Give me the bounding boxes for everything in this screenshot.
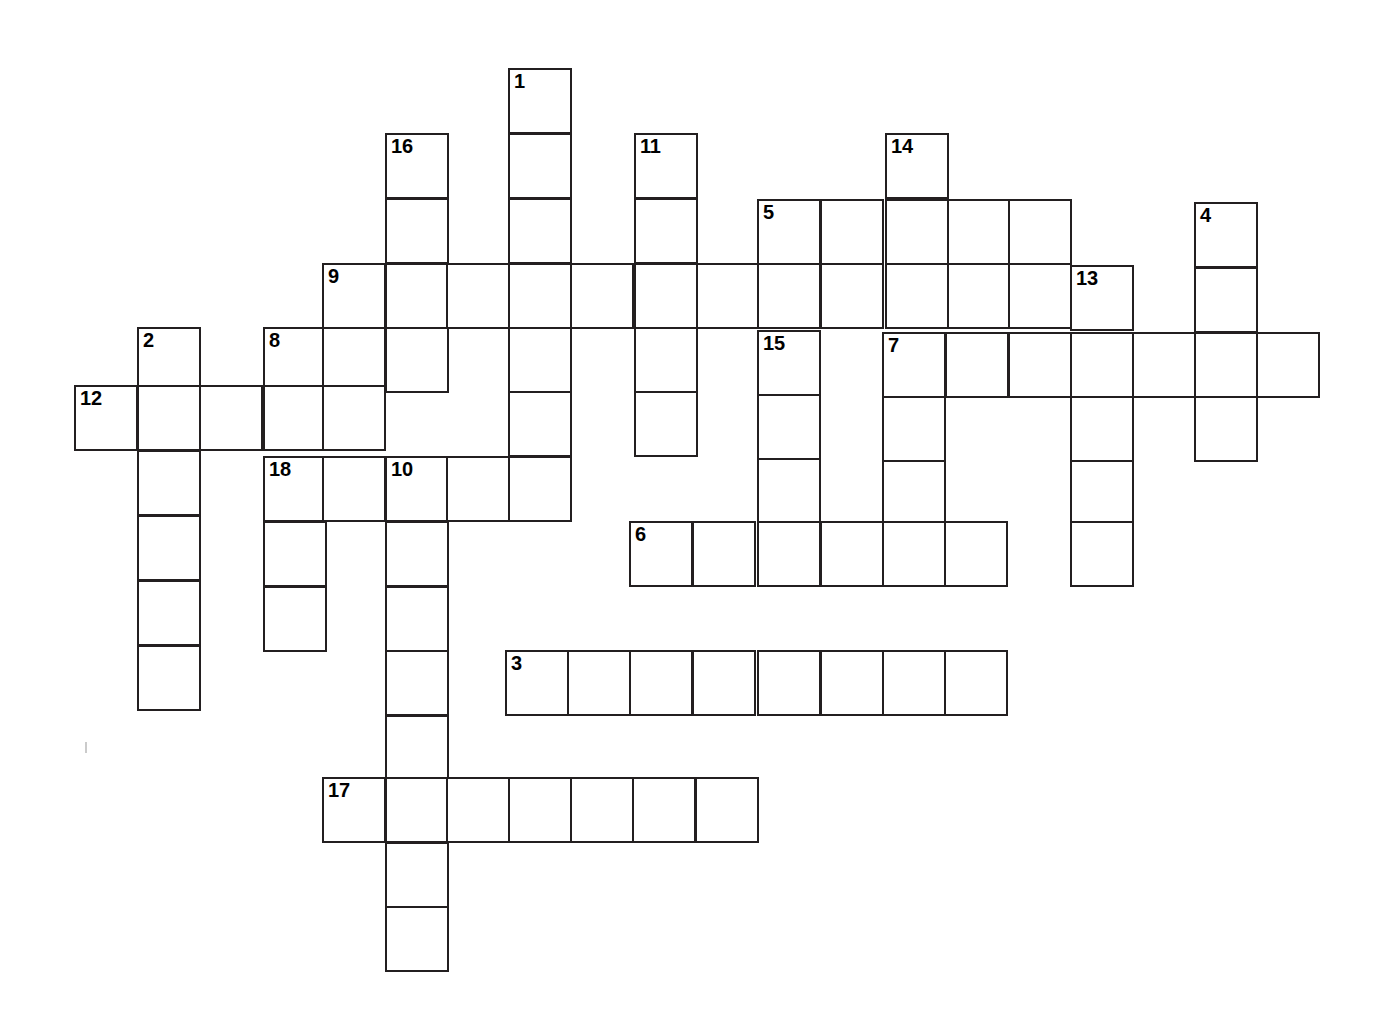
grid-cell[interactable]	[199, 385, 263, 451]
clue-number-3: 3	[511, 653, 522, 674]
grid-cell-numbered-11[interactable]: 11	[634, 133, 698, 199]
grid-cell[interactable]	[947, 263, 1011, 329]
grid-cell[interactable]	[322, 456, 386, 522]
grid-cell[interactable]	[629, 650, 693, 716]
grid-cell[interactable]	[820, 263, 884, 329]
grid-cell[interactable]	[634, 327, 698, 393]
grid-cell[interactable]	[385, 198, 449, 264]
crossword-grid[interactable]: 116111454913281571218106317	[0, 0, 1386, 1033]
grid-cell[interactable]	[634, 198, 698, 264]
grid-cell[interactable]	[508, 198, 572, 264]
clue-number-13: 13	[1076, 268, 1098, 289]
grid-cell[interactable]	[696, 263, 760, 329]
grid-cell[interactable]	[692, 650, 756, 716]
grid-cell[interactable]	[757, 650, 821, 716]
grid-cell-numbered-8[interactable]: 8	[263, 327, 327, 393]
grid-cell[interactable]	[1194, 396, 1258, 462]
grid-cell[interactable]	[322, 327, 386, 393]
grid-cell[interactable]	[1008, 199, 1072, 265]
grid-cell[interactable]	[757, 263, 821, 329]
grid-cell[interactable]	[508, 456, 572, 522]
grid-cell-numbered-16[interactable]: 16	[385, 133, 449, 199]
grid-cell[interactable]	[634, 263, 698, 329]
grid-cell[interactable]	[263, 586, 327, 652]
grid-cell[interactable]	[137, 515, 201, 581]
grid-cell[interactable]	[508, 133, 572, 199]
grid-cell[interactable]	[508, 777, 572, 843]
grid-cell-numbered-12[interactable]: 12	[74, 385, 138, 451]
grid-cell[interactable]	[1194, 267, 1258, 333]
grid-cell[interactable]	[634, 391, 698, 457]
grid-cell[interactable]	[1008, 263, 1072, 329]
grid-cell-numbered-2[interactable]: 2	[137, 327, 201, 393]
grid-cell[interactable]	[508, 327, 572, 393]
grid-cell[interactable]	[385, 777, 449, 843]
grid-cell[interactable]	[385, 327, 449, 393]
grid-cell[interactable]	[385, 263, 449, 329]
grid-cell[interactable]	[137, 450, 201, 516]
grid-cell[interactable]	[570, 777, 634, 843]
grid-cell-numbered-4[interactable]: 4	[1194, 202, 1258, 268]
grid-cell[interactable]	[1008, 332, 1072, 398]
grid-cell[interactable]	[947, 199, 1011, 265]
grid-cell[interactable]	[385, 842, 449, 908]
grid-cell[interactable]	[446, 263, 510, 329]
grid-cell[interactable]	[1070, 396, 1134, 462]
grid-cell[interactable]	[508, 263, 572, 329]
grid-cell[interactable]	[446, 777, 510, 843]
grid-cell[interactable]	[757, 394, 821, 460]
grid-cell[interactable]	[757, 458, 821, 524]
grid-cell-numbered-1[interactable]: 1	[508, 68, 572, 134]
clue-number-6: 6	[635, 524, 646, 545]
grid-cell[interactable]	[1070, 332, 1134, 398]
grid-cell[interactable]	[820, 650, 884, 716]
grid-cell[interactable]	[385, 521, 449, 587]
grid-cell[interactable]	[446, 456, 510, 522]
grid-cell-numbered-5[interactable]: 5	[757, 199, 821, 265]
grid-cell[interactable]	[137, 645, 201, 711]
grid-cell[interactable]	[944, 650, 1008, 716]
grid-cell[interactable]	[1256, 332, 1320, 398]
grid-cell[interactable]	[385, 715, 449, 781]
grid-cell[interactable]	[1132, 332, 1196, 398]
grid-cell[interactable]	[882, 521, 946, 587]
grid-cell[interactable]	[757, 521, 821, 587]
grid-cell[interactable]	[885, 199, 949, 265]
grid-cell[interactable]	[882, 650, 946, 716]
grid-cell[interactable]	[385, 586, 449, 652]
grid-cell[interactable]	[820, 521, 884, 587]
grid-cell[interactable]	[632, 777, 696, 843]
grid-cell-numbered-13[interactable]: 13	[1070, 265, 1134, 331]
grid-cell-numbered-17[interactable]: 17	[322, 777, 386, 843]
grid-cell[interactable]	[692, 521, 756, 587]
grid-cell[interactable]	[570, 263, 634, 329]
grid-cell[interactable]	[944, 521, 1008, 587]
grid-cell-numbered-9[interactable]: 9	[322, 263, 386, 329]
grid-cell-numbered-10[interactable]: 10	[385, 456, 449, 522]
grid-cell[interactable]	[137, 580, 201, 646]
clue-number-16: 16	[391, 136, 413, 157]
grid-cell[interactable]	[1070, 460, 1134, 526]
grid-cell[interactable]	[1070, 521, 1134, 587]
grid-cell[interactable]	[263, 521, 327, 587]
grid-cell[interactable]	[885, 263, 949, 329]
grid-cell-numbered-3[interactable]: 3	[505, 650, 569, 716]
grid-cell-numbered-18[interactable]: 18	[263, 456, 327, 522]
grid-cell-numbered-7[interactable]: 7	[882, 332, 946, 398]
grid-cell[interactable]	[263, 385, 327, 451]
grid-cell[interactable]	[567, 650, 631, 716]
grid-cell[interactable]	[695, 777, 759, 843]
grid-cell-numbered-6[interactable]: 6	[629, 521, 693, 587]
grid-cell[interactable]	[820, 199, 884, 265]
grid-cell-numbered-15[interactable]: 15	[757, 330, 821, 396]
grid-cell[interactable]	[882, 460, 946, 526]
grid-cell[interactable]	[882, 396, 946, 462]
grid-cell[interactable]	[137, 385, 201, 451]
grid-cell-numbered-14[interactable]: 14	[885, 133, 949, 199]
grid-cell[interactable]	[385, 650, 449, 716]
grid-cell[interactable]	[385, 906, 449, 972]
grid-cell[interactable]	[1194, 332, 1258, 398]
grid-cell[interactable]	[508, 391, 572, 457]
grid-cell[interactable]	[945, 332, 1009, 398]
grid-cell[interactable]	[322, 385, 386, 451]
